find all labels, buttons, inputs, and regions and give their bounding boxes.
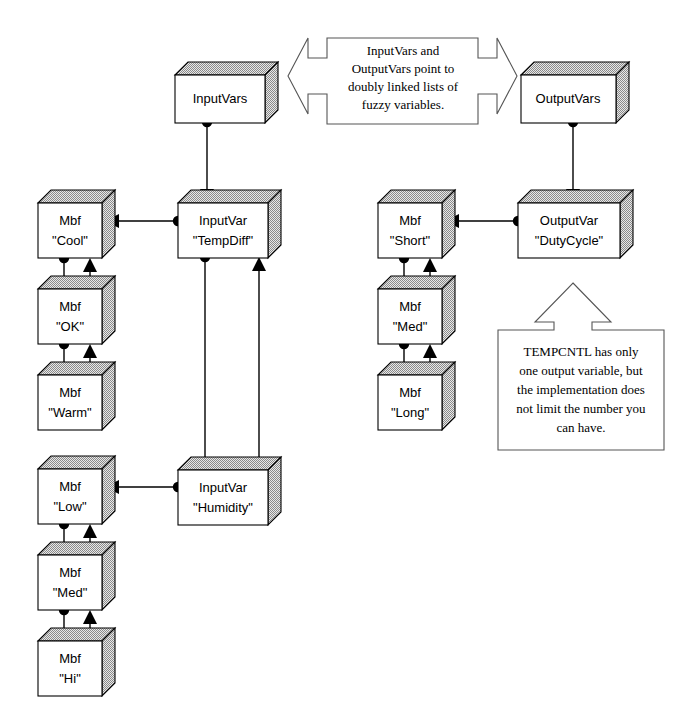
fuzzy-variable-diagram: InputVars OutputVars InputVar "TempDiff"…	[0, 0, 687, 720]
callout-up-arrow-line-1: TEMPCNTL has only	[523, 344, 639, 359]
node-mbf-low[interactable]: Mbf "Low"	[38, 456, 115, 524]
node-label-humidity-line2: "Humidity"	[193, 500, 253, 515]
callout-double-arrow-line-3: doubly linked lists of	[348, 79, 459, 94]
node-label-mbf-low-line1: Mbf	[59, 479, 81, 494]
node-label-mbf-short-line1: Mbf	[399, 213, 421, 228]
node-label-tempdiff-line2: "TempDiff"	[193, 233, 254, 248]
callout-double-arrow: InputVars and OutputVars point to doubly…	[288, 38, 517, 124]
callout-up-arrow-line-4: not limit the number you	[516, 401, 646, 416]
node-label-mbf-cool-line2: "Cool"	[52, 233, 88, 248]
callout-up-arrow: TEMPCNTL has only one output variable, b…	[498, 283, 664, 450]
node-label-mbf-ok-line1: Mbf	[59, 299, 81, 314]
callout-double-arrow-line-4: fuzzy variables.	[362, 97, 444, 112]
callout-up-arrow-line-5: can have.	[556, 420, 605, 435]
node-mbf-ok[interactable]: Mbf "OK"	[38, 276, 115, 344]
node-mbf-med-duty[interactable]: Mbf "Med"	[378, 276, 455, 344]
node-label-tempdiff-line1: InputVar	[199, 213, 248, 228]
diagram-canvas: InputVars OutputVars InputVar "TempDiff"…	[0, 0, 687, 720]
node-input-var-tempdiff[interactable]: InputVar "TempDiff"	[178, 190, 281, 258]
node-label-mbf-med-duty-line1: Mbf	[399, 299, 421, 314]
node-mbf-hi[interactable]: Mbf "Hi"	[38, 628, 115, 696]
node-mbf-warm[interactable]: Mbf "Warm"	[38, 362, 115, 430]
callout-up-arrow-line-2: one output variable, but	[519, 363, 643, 378]
node-label-mbf-med-humidity-line2: "Med"	[53, 585, 88, 600]
node-label-mbf-warm-line2: "Warm"	[48, 405, 92, 420]
node-label-humidity-line1: InputVar	[199, 480, 248, 495]
node-input-vars[interactable]: InputVars	[175, 62, 278, 123]
node-label-dutycycle-line2: "DutyCycle"	[535, 233, 604, 248]
node-label-mbf-warm-line1: Mbf	[59, 385, 81, 400]
callout-up-arrow-line-3: the implementation does	[517, 382, 645, 397]
node-output-vars[interactable]: OutputVars	[521, 62, 629, 123]
node-label-mbf-hi-line2: "Hi"	[59, 671, 81, 686]
node-label-output-vars: OutputVars	[536, 91, 601, 106]
node-input-var-humidity[interactable]: InputVar "Humidity"	[178, 457, 281, 525]
connector-tempdiff-to-mbf-cool	[105, 214, 183, 228]
node-label-mbf-hi-line1: Mbf	[59, 651, 81, 666]
node-label-input-vars: InputVars	[193, 91, 248, 106]
node-mbf-med-humidity[interactable]: Mbf "Med"	[38, 542, 115, 610]
node-mbf-long[interactable]: Mbf "Long"	[378, 362, 455, 430]
node-output-var-dutycycle[interactable]: OutputVar "DutyCycle"	[518, 190, 633, 258]
connector-tempdiff-next-humidity	[198, 252, 212, 473]
node-label-mbf-med-humidity-line1: Mbf	[59, 565, 81, 580]
node-label-mbf-ok-line2: "OK"	[56, 319, 84, 334]
node-label-mbf-low-line2: "Low"	[53, 499, 86, 514]
node-label-mbf-med-duty-line2: "Med"	[393, 319, 428, 334]
node-label-mbf-cool-line1: Mbf	[59, 213, 81, 228]
node-label-mbf-short-line2: "Short"	[390, 233, 431, 248]
connector-humidity-prev-tempdiff	[252, 257, 266, 471]
connector-humidity-to-mbf-low	[105, 480, 183, 494]
node-label-mbf-long-line1: Mbf	[399, 385, 421, 400]
node-mbf-short[interactable]: Mbf "Short"	[378, 190, 455, 258]
node-label-dutycycle-line1: OutputVar	[540, 213, 599, 228]
node-mbf-cool[interactable]: Mbf "Cool"	[38, 190, 115, 258]
connector-dutycycle-to-mbf-short	[445, 214, 523, 228]
node-label-mbf-long-line2: "Long"	[391, 405, 430, 420]
callout-double-arrow-line-1: InputVars and	[367, 43, 440, 58]
callout-double-arrow-line-2: OutputVars point to	[352, 61, 455, 76]
